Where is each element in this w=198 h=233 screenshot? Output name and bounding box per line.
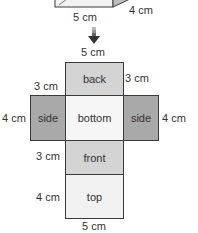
face-bottom-label: bottom (78, 112, 112, 124)
side-left-dimension: 4 cm (2, 112, 26, 124)
face-front-label: front (83, 152, 105, 164)
top-left-dimension: 4 cm (36, 191, 60, 203)
face-side-right: side (123, 95, 159, 141)
down-arrow-icon (87, 27, 101, 45)
net-bottom-width-label: 5 cm (82, 220, 106, 232)
face-side-left: side (30, 95, 66, 141)
prism-width-label: 5 cm (73, 11, 97, 23)
face-top: top (65, 174, 124, 219)
face-back-label: back (83, 73, 106, 85)
face-front: front (65, 140, 124, 175)
face-top-label: top (87, 191, 102, 203)
front-left-dimension: 3 cm (36, 150, 60, 162)
back-left-dimension: 3 cm (34, 80, 58, 92)
face-bottom: bottom (65, 95, 124, 141)
back-right-dimension: 3 cm (125, 72, 149, 84)
face-side-left-label: side (38, 112, 58, 124)
net-top-width-label: 5 cm (81, 46, 105, 58)
face-side-right-label: side (131, 112, 151, 124)
side-right-dimension: 4 cm (162, 112, 186, 124)
prism-depth-label: 4 cm (129, 4, 153, 16)
face-back: back (65, 62, 124, 96)
